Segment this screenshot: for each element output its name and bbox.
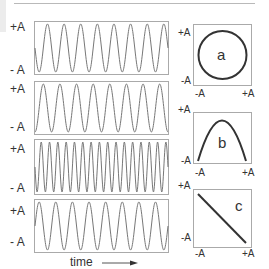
panel-label-b: b [218, 134, 226, 151]
y-plus-label: +A [178, 180, 191, 191]
x-plus-label: +A [242, 167, 255, 178]
xy-panel-c: c +A -A -A +A [178, 180, 255, 259]
amp-minus-label: - A [10, 181, 25, 195]
amp-plus-label: +A [10, 142, 25, 156]
time-label: time [70, 255, 93, 269]
wave-panel-3: +A - A [10, 140, 169, 196]
amp-minus-label: - A [10, 63, 25, 77]
y-plus-label: +A [178, 104, 191, 115]
x-plus-label: +A [242, 88, 255, 99]
amp-plus-label: +A [10, 20, 25, 34]
y-plus-label: +A [178, 27, 191, 38]
x-minus-label: -A [195, 248, 205, 259]
amp-plus-label: +A [10, 82, 25, 96]
wave-panel-4: +A - A [10, 200, 169, 253]
lissajous-diagram: +A - A +A - A +A - A +A - A time a +A -A… [0, 0, 269, 269]
panel-label-c: c [235, 197, 243, 214]
amp-minus-label: - A [10, 120, 25, 134]
amp-plus-label: +A [10, 204, 25, 218]
xy-panel-b: b +A -A -A +A [178, 104, 255, 178]
x-minus-label: -A [195, 88, 205, 99]
x-plus-label: +A [242, 248, 255, 259]
amp-minus-label: - A [10, 235, 25, 249]
xy-panel-a: a +A -A -A +A [178, 25, 255, 100]
y-minus-label: -A [181, 232, 191, 243]
y-minus-label: -A [181, 155, 191, 166]
y-minus-label: -A [181, 75, 191, 86]
wave-panel-2: +A - A [10, 82, 169, 135]
x-minus-label: -A [195, 167, 205, 178]
panel-label-a: a [217, 46, 226, 63]
wave-panel-1: +A - A [10, 20, 169, 77]
arrow-right-icon [130, 261, 138, 266]
